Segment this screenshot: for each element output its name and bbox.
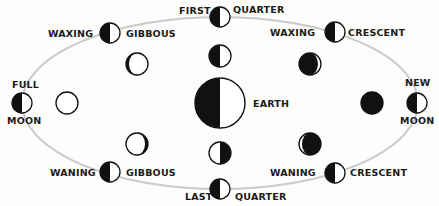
label-last-quarter-a: LAST [185, 192, 213, 202]
view-moon-new-icon [361, 92, 383, 114]
orbit-moon-waning-crescent-icon [325, 163, 345, 183]
orbit-moon-waning-gibbous-icon [100, 162, 120, 182]
view-moon-crescent-top-icon [299, 53, 321, 75]
label-new: NEW [405, 78, 431, 88]
label-waxing-crescent-a: WAXING [270, 28, 315, 38]
label-waxing-gibbous-a: WAXING [48, 29, 93, 39]
label-waxing-crescent-b: CRESCENT [348, 28, 405, 38]
label-waning-gibbous-a: WANING [50, 168, 96, 178]
moon-phases-diagram: FULL MOON NEW MOON WAXING GIBBOUS FIRST … [0, 0, 439, 206]
view-moon-gibbous-bottom-icon [126, 133, 148, 155]
label-earth: EARTH [253, 99, 289, 109]
label-last-quarter-b: QUARTER [235, 192, 286, 202]
label-first-quarter-b: QUARTER [233, 5, 284, 15]
label-waning-crescent-b: CRESCENT [350, 168, 407, 178]
view-moon-full-icon [56, 92, 78, 114]
orbit-moon-waxing-crescent-icon [325, 22, 345, 42]
orbit-moon-first-quarter-icon [210, 7, 230, 27]
label-waxing-gibbous-b: GIBBOUS [126, 29, 176, 39]
view-moon-gibbous-top-icon [126, 53, 148, 75]
label-new-moon: MOON [400, 116, 434, 126]
view-moon-quarter-top-icon [209, 45, 231, 67]
orbit-moon-full-icon [12, 93, 32, 113]
view-moon-crescent-bottom-icon [299, 133, 321, 155]
orbit-moon-new-icon [407, 93, 427, 113]
orbit-moon-waxing-gibbous-icon [100, 23, 120, 43]
view-moon-quarter-bottom-icon [209, 142, 231, 164]
label-waning-crescent-a: WANING [270, 168, 316, 178]
orbit-moon-last-quarter-icon [210, 179, 230, 199]
label-waning-gibbous-b: GIBBOUS [126, 168, 176, 178]
label-full-moon: MOON [7, 116, 41, 126]
label-first-quarter-a: FIRST [179, 6, 211, 16]
label-full: FULL [12, 80, 39, 90]
earth-icon [195, 78, 245, 128]
